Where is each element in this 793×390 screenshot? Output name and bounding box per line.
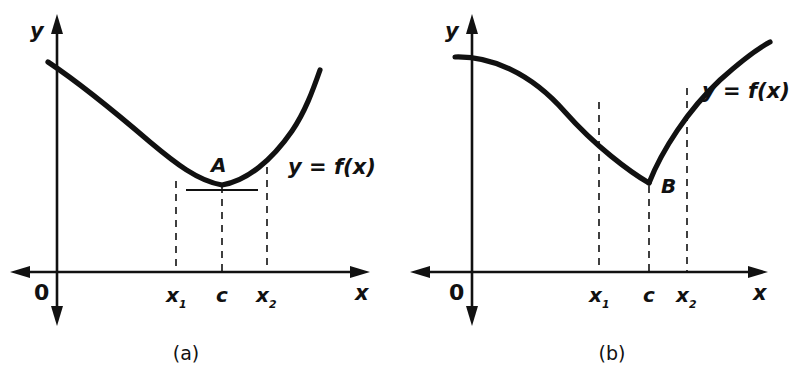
figure-panel-b: y x 0 B y = f(x) x 1 c x 2 (b)	[400, 0, 793, 390]
svg-text:x: x	[255, 283, 270, 307]
y-axis-label-b: y	[445, 19, 460, 43]
tick-label-x1-a: x 1	[165, 283, 187, 311]
curve-b-right-branch	[649, 42, 770, 183]
tick-label-c-b: c	[643, 283, 655, 307]
curve-label-a: y = f(x)	[288, 155, 376, 179]
point-label-b: B	[661, 174, 676, 198]
y-axis-a	[51, 14, 63, 326]
svg-text:x: x	[588, 283, 603, 307]
curve-b-left-branch	[455, 57, 649, 183]
curve-label-b: y = f(x)	[702, 79, 790, 103]
svg-text:2: 2	[689, 298, 697, 311]
y-axis-label-a: y	[30, 19, 45, 43]
figure-panel-a: y x 0 A y = f(x) x 1 c x 2 (a)	[0, 0, 400, 390]
origin-label-b: 0	[449, 280, 464, 305]
tick-label-x1-b: x 1	[588, 283, 610, 311]
panel-a-svg: y x 0 A y = f(x) x 1 c x 2 (a)	[0, 0, 400, 390]
x-axis-b	[410, 266, 768, 278]
tick-label-x2-a: x 2	[255, 283, 277, 311]
svg-text:1: 1	[602, 298, 610, 311]
panel-b-svg: y x 0 B y = f(x) x 1 c x 2 (b)	[400, 0, 793, 390]
tick-label-x2-b: x 2	[675, 283, 697, 311]
svg-text:x: x	[165, 283, 180, 307]
tick-label-c-a: c	[216, 283, 228, 307]
x-axis-label-a: x	[354, 281, 370, 305]
origin-label-a: 0	[34, 280, 49, 305]
x-axis-a	[10, 266, 370, 278]
svg-text:1: 1	[179, 298, 187, 311]
figure-root: y x 0 A y = f(x) x 1 c x 2 (a)	[0, 0, 793, 390]
svg-text:2: 2	[269, 298, 277, 311]
svg-text:x: x	[675, 283, 690, 307]
point-label-a: A	[209, 153, 226, 177]
x-axis-label-b: x	[752, 281, 768, 305]
curve-a	[48, 62, 320, 185]
panel-caption-b: (b)	[599, 342, 626, 364]
panel-caption-a: (a)	[173, 342, 199, 364]
